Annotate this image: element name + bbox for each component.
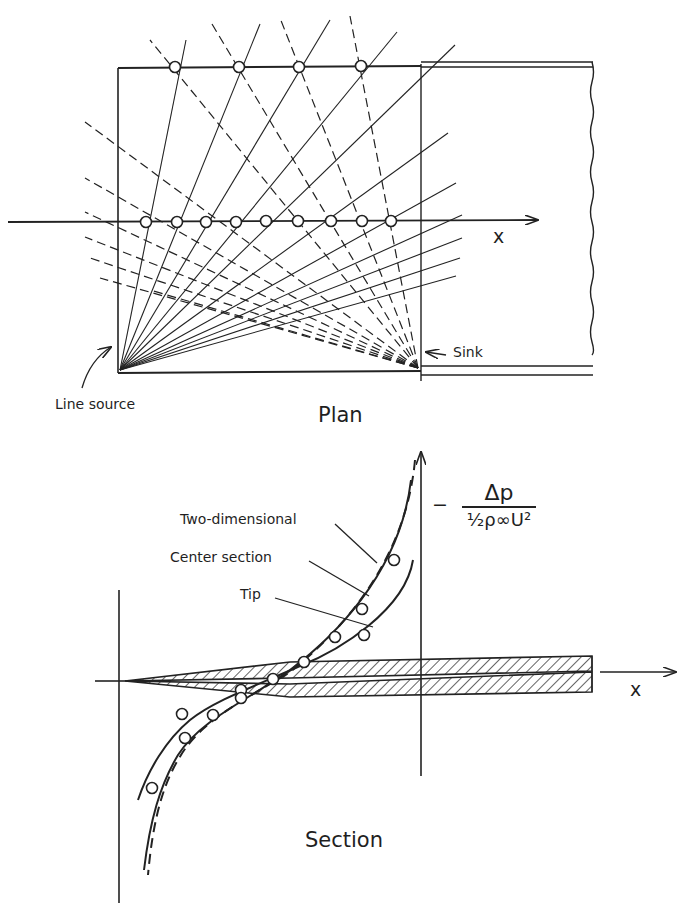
line-source-label: Line source: [55, 396, 135, 412]
sink-label: Sink: [453, 344, 483, 360]
section-x-axis-label: x: [630, 678, 641, 700]
fraction-bar: [462, 506, 536, 508]
wing-leading-edge: [118, 66, 421, 68]
plan-x-axis: [8, 220, 538, 222]
axis-points: [141, 216, 397, 228]
source-rays: [120, 20, 462, 370]
sink-leader-arrow: [426, 352, 446, 355]
section-title: Section: [305, 828, 383, 852]
legend-tip: Tip: [240, 586, 261, 602]
wing-trailing-edge: [118, 371, 421, 373]
legend-two-dimensional: Two-dimensional: [180, 511, 297, 527]
y-label-minus: −: [432, 493, 448, 515]
wavy-break-edge: [591, 62, 594, 355]
y-axis-label-fraction: Δp ½ρ∞U²: [462, 481, 536, 531]
y-label-numerator: Δp: [462, 481, 536, 505]
y-label-denominator: ½ρ∞U²: [462, 509, 536, 531]
diagram-canvas: [0, 0, 691, 920]
source-leader-arrow: [82, 347, 111, 388]
plan-x-axis-label: x: [493, 225, 504, 247]
legend-center-section: Center section: [170, 549, 272, 565]
plan-title: Plan: [318, 403, 363, 427]
